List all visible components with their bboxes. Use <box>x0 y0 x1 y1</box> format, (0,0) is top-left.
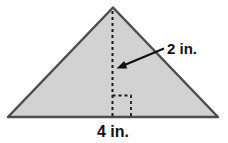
triangle-diagram-canvas: 2 in. 4 in. <box>0 0 228 143</box>
base-dimension-label: 4 in. <box>97 123 129 140</box>
geometry-figure: 2 in. 4 in. <box>0 0 228 143</box>
height-dimension-label: 2 in. <box>167 40 197 57</box>
